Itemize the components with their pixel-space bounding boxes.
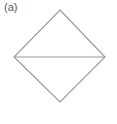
diamond-outline [14, 10, 105, 102]
diamond-diagram [0, 0, 117, 124]
